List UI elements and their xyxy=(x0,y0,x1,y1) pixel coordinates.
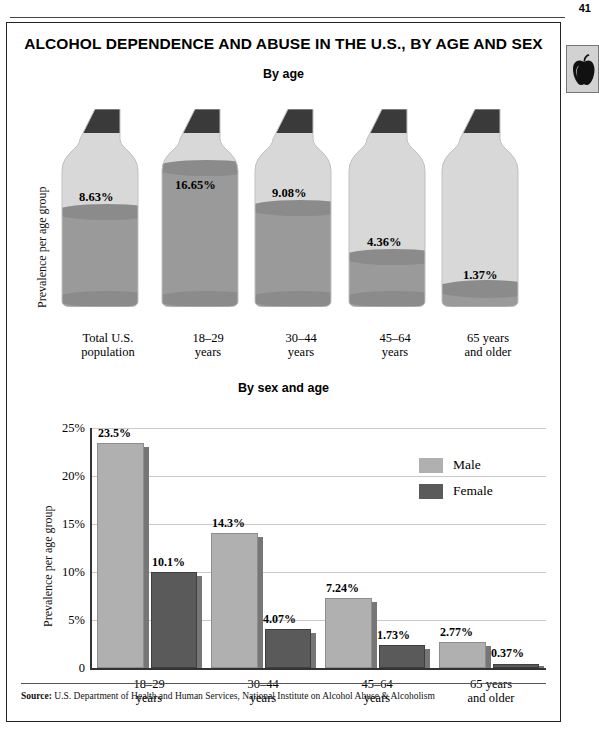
ytick-label-15: 15% xyxy=(31,517,85,532)
xtick-label-line1: 18–29 xyxy=(97,677,201,691)
x-axis-line xyxy=(90,668,546,670)
bottle-value-total-us-population: 8.63% xyxy=(79,190,113,205)
page-number: 41 xyxy=(579,2,591,14)
header-rule xyxy=(10,17,565,18)
bar-value-male-30-44: 14.3% xyxy=(212,516,245,531)
source-label: Source: xyxy=(21,691,52,701)
bar-chart-title: By sex and age xyxy=(7,381,560,395)
xtick-label-line1: 30–44 xyxy=(211,677,315,691)
side-tab[interactable] xyxy=(566,45,599,93)
bar-female-65plus[interactable] xyxy=(493,664,539,668)
page-root: 41 ALCOHOL DEPENDENCE AND ABUSE IN THE U… xyxy=(0,0,599,748)
bar-female-45-64[interactable] xyxy=(379,645,425,668)
bar-value-female-45-64: 1.73% xyxy=(377,628,410,643)
bottle-label-line1: 65 years xyxy=(437,331,539,345)
bar-shadow-female-18-29 xyxy=(197,576,202,668)
bottle-value-65-years-and-older: 1.37% xyxy=(463,268,497,283)
bottle-label-line2: and older xyxy=(437,345,539,359)
bar-shadow-female-45-64 xyxy=(425,649,430,668)
bottle-label-30-44-years: 30–44 years xyxy=(250,331,352,359)
bar-shadow-male-18-29 xyxy=(144,447,149,668)
gridline-25 xyxy=(90,428,546,429)
y-axis-line xyxy=(90,428,92,669)
bar-male-45-64[interactable] xyxy=(325,598,372,668)
bottle-45-64-years xyxy=(342,109,447,307)
bar-value-female-65plus: 0.37% xyxy=(491,646,524,661)
legend-label-male: Male xyxy=(453,457,481,473)
bottle-label-line1: Total U.S. xyxy=(57,331,159,345)
gridline-20 xyxy=(90,476,546,477)
bottle-label-line2: population xyxy=(57,345,159,359)
bottle-label-line1: 18–29 xyxy=(157,331,259,345)
bar-male-18-29[interactable] xyxy=(97,443,144,668)
ytick-label-25: 25% xyxy=(31,421,85,436)
bottle-chart-ylabel: Prevalence per age group xyxy=(35,186,50,308)
ytick-label-0: 0 xyxy=(31,661,85,676)
legend-swatch-female xyxy=(419,484,443,499)
gridline-15 xyxy=(90,524,546,525)
bottle-label-18-29-years: 18–29 years xyxy=(157,331,259,359)
bottle-30-44-years xyxy=(248,109,353,307)
bar-male-30-44[interactable] xyxy=(211,533,258,668)
bottle-label-line2: years xyxy=(157,345,259,359)
bottle-value-18-29-years: 16.65% xyxy=(175,178,216,193)
bottle-value-45-64-years: 4.36% xyxy=(367,235,401,250)
chart-frame: ALCOHOL DEPENDENCE AND ABUSE IN THE U.S.… xyxy=(6,22,561,722)
source-divider xyxy=(21,683,546,684)
bar-value-female-30-44: 4.07% xyxy=(263,612,296,627)
bottle-18-29-years xyxy=(155,109,260,307)
bar-value-male-45-64: 7.24% xyxy=(326,581,359,596)
bar-male-65plus[interactable] xyxy=(439,642,486,668)
xtick-label-line1: 65 years xyxy=(439,677,543,691)
xtick-label-line2: and older xyxy=(439,691,543,705)
ytick-label-20: 20% xyxy=(31,469,85,484)
bar-value-female-18-29: 10.1% xyxy=(152,555,185,570)
bottle-value-30-44-years: 9.08% xyxy=(272,186,306,201)
bar-shadow-female-65plus xyxy=(539,666,544,668)
bottle-label-line2: years xyxy=(344,345,446,359)
bottle-label-45-64-years: 45–64 years xyxy=(344,331,446,359)
xtick-label-line1: 45–64 xyxy=(325,677,429,691)
xtick-label-65plus: 65 years and older xyxy=(439,677,543,705)
bottle-chart: Prevalence per age group xyxy=(7,23,562,363)
bottle-label-line1: 45–64 xyxy=(344,331,446,345)
source-note: Source: U.S. Department of Health and Hu… xyxy=(21,691,435,701)
legend-swatch-male xyxy=(419,458,443,473)
bottle-total-us-population xyxy=(55,109,160,307)
bar-chart: Prevalence per age group 25% 20% 15% 10%… xyxy=(7,395,562,695)
bottle-label-total-us-population: Total U.S. population xyxy=(57,331,159,359)
bottle-label-65-years-and-older: 65 years and older xyxy=(437,331,539,359)
bar-female-30-44[interactable] xyxy=(265,629,311,668)
bottle-label-line1: 30–44 xyxy=(250,331,352,345)
bottle-label-line2: years xyxy=(250,345,352,359)
ytick-label-10: 10% xyxy=(31,565,85,580)
legend-label-female: Female xyxy=(453,483,493,499)
bar-shadow-male-30-44 xyxy=(258,537,263,668)
source-text: U.S. Department of Health and Human Serv… xyxy=(54,691,434,701)
bar-value-male-18-29: 23.5% xyxy=(98,426,131,441)
bar-female-18-29[interactable] xyxy=(151,572,197,668)
apple-icon xyxy=(571,52,595,88)
ytick-label-5: 5% xyxy=(31,613,85,628)
bar-value-male-65plus: 2.77% xyxy=(440,625,473,640)
bar-shadow-female-30-44 xyxy=(311,633,316,668)
